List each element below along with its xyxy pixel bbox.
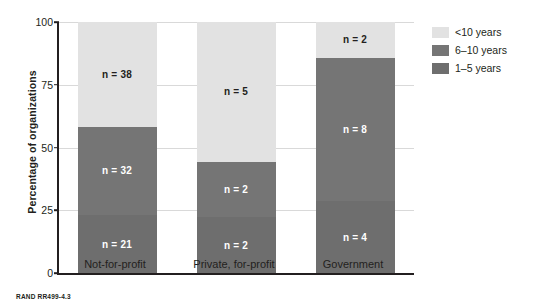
plot-inner: 0255075100n = 21n = 32n = 38n = 2n = 2n …	[59, 22, 414, 273]
plot-area: 0255075100n = 21n = 32n = 38n = 2n = 2n …	[57, 22, 414, 275]
bar-segment-label: n = 32	[102, 165, 132, 176]
bar-segment-label: n = 21	[102, 239, 132, 250]
legend-item: 6–10 years	[432, 44, 507, 56]
legend-swatch	[432, 45, 449, 56]
y-tick-mark-25	[54, 209, 59, 211]
legend-swatch	[432, 63, 449, 74]
bar-segment: n = 8	[316, 58, 395, 201]
bar-segment-label: n = 2	[224, 240, 248, 251]
y-tick-label-100: 100	[19, 16, 53, 28]
legend-item: <10 years	[432, 26, 507, 38]
source-id: RAND RR499-4.3	[16, 293, 71, 300]
x-axis-label: Government	[278, 258, 428, 270]
bar-segment-label: n = 38	[102, 69, 132, 80]
bar-private-for-profit: n = 2n = 2n = 5	[197, 22, 276, 273]
y-tick-label-50: 50	[19, 142, 53, 154]
y-tick-mark-75	[54, 84, 59, 86]
bar-segment-label: n = 4	[343, 232, 367, 243]
bar-segment: n = 32	[78, 127, 157, 215]
y-tick-mark-100	[54, 21, 59, 23]
bar-segment: n = 38	[78, 22, 157, 127]
stacked-bar-chart-figure: Percentage of organizations 0255075100n …	[0, 0, 540, 303]
legend-label: 6–10 years	[455, 44, 507, 56]
legend-swatch	[432, 27, 449, 38]
bar-segment-label: n = 5	[224, 86, 248, 97]
y-tick-label-25: 25	[19, 204, 53, 216]
bar-not-for-profit: n = 21n = 32n = 38	[78, 22, 157, 273]
y-tick-label-75: 75	[19, 79, 53, 91]
bar-segment-label: n = 2	[343, 34, 367, 45]
bar-segment: n = 5	[197, 22, 276, 162]
bar-segment: n = 2	[316, 22, 395, 58]
legend-label: <10 years	[455, 26, 501, 38]
bar-segment-label: n = 8	[343, 124, 367, 135]
bar-government: n = 4n = 8n = 2	[316, 22, 395, 273]
chart-legend: <10 years6–10 years1–5 years	[432, 26, 507, 74]
bar-segment: n = 2	[197, 162, 276, 218]
legend-item: 1–5 years	[432, 62, 507, 74]
bar-segment-label: n = 2	[224, 184, 248, 195]
legend-label: 1–5 years	[455, 62, 501, 74]
y-tick-mark-50	[54, 147, 59, 149]
y-tick-mark-0	[54, 272, 59, 274]
